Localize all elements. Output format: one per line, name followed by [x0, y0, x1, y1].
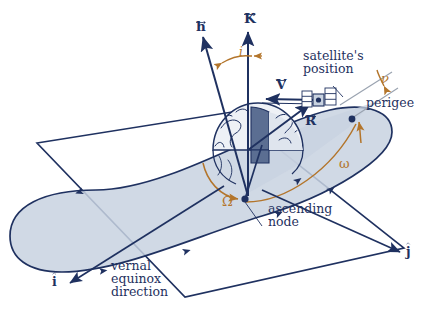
diagram-canvas [0, 0, 436, 312]
satellite-icon [302, 88, 336, 107]
inclination-angle-arc [222, 56, 262, 63]
orbital-elements-diagram: h K V R [0, 0, 436, 312]
